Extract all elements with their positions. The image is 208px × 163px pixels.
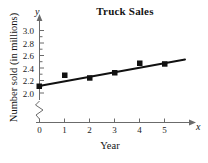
truck-sales-chart-figure: Truck Sales Number sold (in millions) Ye… <box>0 0 208 163</box>
axes-group <box>36 14 197 125</box>
data-point <box>137 61 143 67</box>
data-point <box>112 70 118 76</box>
x-tick-label-5: 5 <box>159 125 171 135</box>
x-tick-label-0: 0 <box>34 125 46 135</box>
y-axis-arrowhead <box>37 14 43 21</box>
x-tick-label-4: 4 <box>134 125 146 135</box>
data-point <box>162 61 168 66</box>
data-point <box>87 75 93 81</box>
y-tick-label-2-4: 2.4 <box>14 64 34 74</box>
x-axis-arrowhead <box>189 120 196 126</box>
x-tick-label-3: 3 <box>109 125 121 135</box>
y-tick-label-2-2: 2.2 <box>14 76 34 86</box>
y-tick-label-3-0: 3.0 <box>14 26 34 36</box>
x-tick-label-1: 1 <box>59 125 71 135</box>
y-axis-break-icon <box>36 101 44 119</box>
y-tick-label-2-8: 2.8 <box>14 39 34 49</box>
data-point <box>62 73 68 79</box>
data-point <box>37 84 43 90</box>
y-tick-label-2-0: 2.0 <box>14 89 34 99</box>
x-tick-label-2: 2 <box>84 125 96 135</box>
x-axis-ticks <box>40 119 165 123</box>
y-tick-label-2-6: 2.6 <box>14 51 34 61</box>
